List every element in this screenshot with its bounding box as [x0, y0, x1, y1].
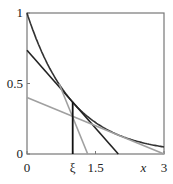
x-tick-label: 3	[161, 160, 168, 175]
shallow-gray-line-line	[27, 98, 164, 154]
x-tick-label: 0	[24, 160, 31, 175]
x-axis-label: x	[140, 160, 147, 175]
y-tick-label: 0	[17, 146, 24, 161]
x-tick-label: ξ	[70, 160, 76, 175]
y-tick-label: 0.5	[7, 76, 23, 91]
x-tick-label: 1.5	[87, 160, 103, 175]
plot-frame	[27, 13, 164, 154]
y-tick-label: 1	[17, 5, 24, 20]
chart: 0ξ1.5300.51x	[0, 0, 173, 184]
